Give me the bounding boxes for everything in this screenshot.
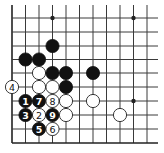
white-stone — [46, 80, 59, 93]
white-stone-icon — [46, 80, 59, 93]
black-stone-icon — [32, 53, 45, 66]
move-number: 1 — [22, 96, 29, 107]
black-stone — [19, 53, 32, 66]
black-stone-icon — [19, 53, 32, 66]
white-stone-icon — [59, 108, 72, 121]
black-stone — [86, 66, 99, 79]
white-stone — [86, 94, 99, 107]
white-stone-move-4: 4 — [5, 80, 18, 93]
move-number: 2 — [36, 110, 42, 121]
move-number: 4 — [9, 82, 15, 93]
star-point-icon — [131, 16, 135, 20]
black-stone-icon — [46, 39, 59, 52]
black-stone — [59, 66, 72, 79]
black-stone-move-9: 9 — [46, 108, 59, 121]
move-number: 9 — [49, 110, 56, 121]
white-stone-move-6: 6 — [46, 122, 59, 135]
black-stone-move-3: 3 — [19, 108, 32, 121]
white-stone — [32, 80, 45, 93]
black-stone-move-7: 7 — [32, 94, 45, 107]
white-stone-icon — [32, 80, 45, 93]
move-number: 6 — [49, 124, 55, 135]
white-stone-icon — [113, 108, 126, 121]
white-stone-move-2: 2 — [32, 108, 45, 121]
black-stone-icon — [59, 66, 72, 79]
black-stone-move-5: 5 — [32, 122, 45, 135]
black-stone-icon — [46, 66, 59, 79]
white-stone-move-8: 8 — [46, 94, 59, 107]
go-board: 417832956 — [0, 0, 164, 153]
black-stone-move-1: 1 — [19, 94, 32, 107]
black-stone-icon — [59, 80, 72, 93]
black-stone — [59, 80, 72, 93]
star-point-icon — [131, 99, 135, 103]
black-stone — [46, 39, 59, 52]
move-number: 5 — [36, 124, 43, 135]
move-number: 7 — [36, 96, 43, 107]
white-stone — [32, 66, 45, 79]
move-number: 3 — [22, 110, 29, 121]
black-stone — [46, 66, 59, 79]
white-stone-icon — [59, 94, 72, 107]
move-number: 8 — [49, 96, 55, 107]
star-point-icon — [50, 16, 54, 20]
white-stone-icon — [32, 66, 45, 79]
white-stone — [59, 94, 72, 107]
white-stone — [113, 108, 126, 121]
white-stone — [59, 108, 72, 121]
black-stone-icon — [86, 66, 99, 79]
white-stone-icon — [86, 94, 99, 107]
black-stone — [32, 53, 45, 66]
